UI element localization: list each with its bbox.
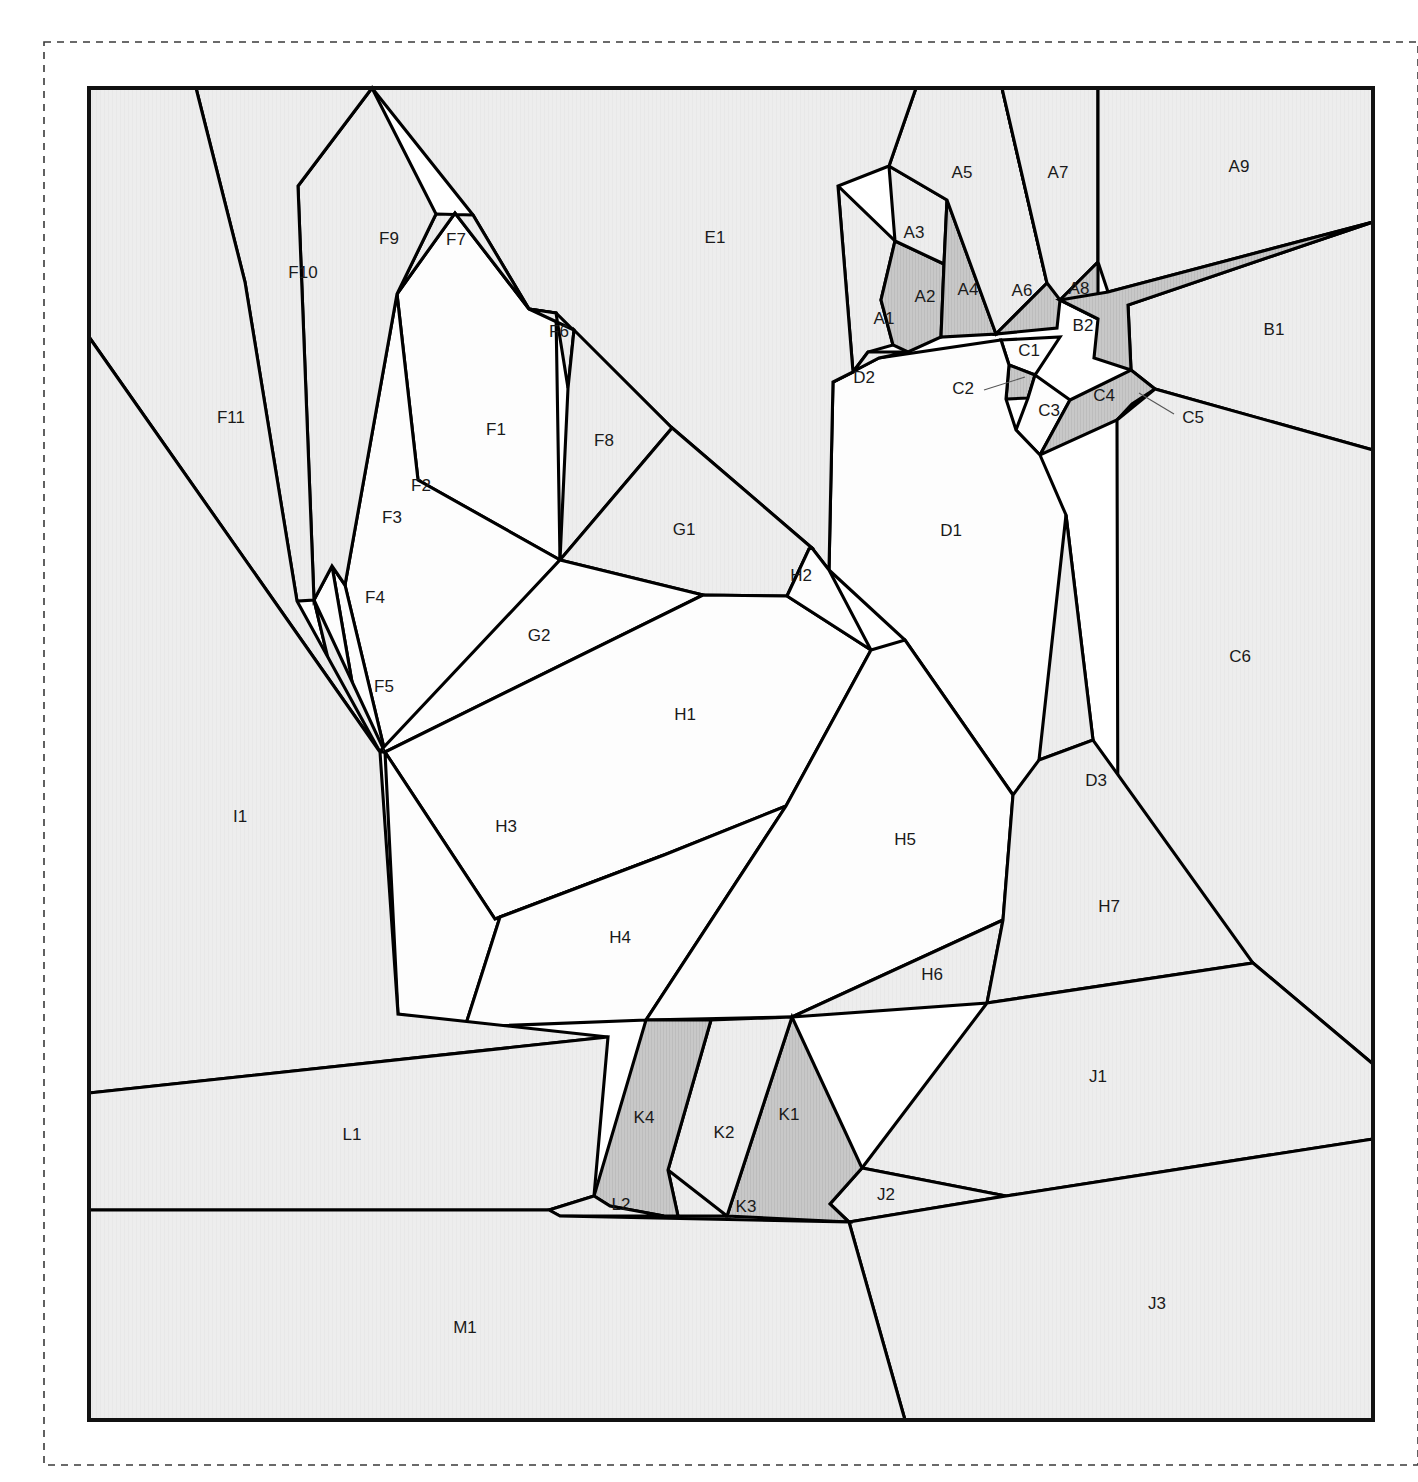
region-label-c2: C2 — [952, 379, 974, 398]
region-label-l1: L1 — [343, 1125, 362, 1144]
region-label-h7: H7 — [1098, 897, 1120, 916]
region-m1[interactable] — [89, 1210, 905, 1420]
sector-partition-diagram: A1A2A3A4A5A6A7A8A9B1B2C1C2C3C4C5C6D1D2D3… — [0, 0, 1418, 1482]
region-label-d3: D3 — [1085, 771, 1107, 790]
region-label-f7: F7 — [446, 230, 466, 249]
region-label-f8: F8 — [594, 431, 614, 450]
region-label-h1: H1 — [674, 705, 696, 724]
region-label-c6: C6 — [1229, 647, 1251, 666]
region-label-h4: H4 — [609, 928, 631, 947]
region-label-a9: A9 — [1229, 157, 1250, 176]
region-label-a2: A2 — [915, 287, 936, 306]
region-label-f9: F9 — [379, 229, 399, 248]
region-label-h6: H6 — [921, 965, 943, 984]
region-label-a4: A4 — [958, 280, 979, 299]
region-label-a5: A5 — [952, 163, 973, 182]
region-label-c5: C5 — [1182, 408, 1204, 427]
region-label-a6: A6 — [1012, 281, 1033, 300]
region-label-f1: F1 — [486, 420, 506, 439]
region-label-j2: J2 — [877, 1185, 895, 1204]
region-label-i1: I1 — [233, 807, 247, 826]
region-label-a8: A8 — [1069, 279, 1090, 298]
region-label-d2: D2 — [853, 368, 875, 387]
region-label-a3: A3 — [904, 223, 925, 242]
region-label-h3: H3 — [495, 817, 517, 836]
region-label-h5: H5 — [894, 830, 916, 849]
region-label-m1: M1 — [453, 1318, 477, 1337]
region-label-a7: A7 — [1048, 163, 1069, 182]
region-label-c3: C3 — [1038, 401, 1060, 420]
region-label-g1: G1 — [673, 520, 696, 539]
region-label-j3: J3 — [1148, 1294, 1166, 1313]
region-label-f2: F2 — [411, 476, 431, 495]
region-label-l2: L2 — [612, 1195, 631, 1214]
region-label-f5: F5 — [374, 677, 394, 696]
region-label-k3: K3 — [736, 1197, 757, 1216]
region-label-f11: F11 — [217, 408, 245, 427]
region-label-d1: D1 — [940, 521, 962, 540]
region-label-k4: K4 — [634, 1108, 655, 1127]
region-label-k1: K1 — [779, 1105, 800, 1124]
region-label-j1: J1 — [1089, 1067, 1107, 1086]
region-label-a1: A1 — [874, 309, 895, 328]
region-label-k2: K2 — [714, 1123, 735, 1142]
region-label-h2: H2 — [790, 566, 812, 585]
region-label-b2: B2 — [1073, 316, 1094, 335]
region-label-f3: F3 — [382, 508, 402, 527]
region-label-f10: F10 — [288, 263, 317, 282]
region-label-f6: F6 — [549, 322, 569, 341]
region-label-g2: G2 — [528, 626, 551, 645]
diagram-canvas: A1A2A3A4A5A6A7A8A9B1B2C1C2C3C4C5C6D1D2D3… — [0, 0, 1418, 1482]
region-label-e1: E1 — [705, 228, 726, 247]
region-group — [89, 88, 1373, 1420]
region-label-c4: C4 — [1093, 386, 1115, 405]
region-label-b1: B1 — [1264, 320, 1285, 339]
region-label-f4: F4 — [365, 588, 385, 607]
region-label-c1: C1 — [1018, 341, 1040, 360]
